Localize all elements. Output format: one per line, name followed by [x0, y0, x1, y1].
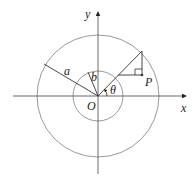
point-p-dot — [141, 74, 144, 77]
diagram: y x a b O θ P — [0, 0, 196, 184]
radius-a-label: a — [64, 64, 70, 78]
right-angle-marker — [135, 69, 142, 75]
angle-label: θ — [110, 83, 116, 97]
x-axis-label: x — [180, 101, 187, 115]
concentric-circles-figure: y x a b O θ P — [0, 0, 196, 184]
radius-a-line — [44, 64, 98, 96]
y-axis-label: y — [84, 7, 91, 21]
radius-b-label: b — [91, 70, 97, 84]
origin-label: O — [87, 99, 96, 113]
point-p-label: P — [144, 75, 153, 89]
angle-arc — [105, 90, 108, 97]
